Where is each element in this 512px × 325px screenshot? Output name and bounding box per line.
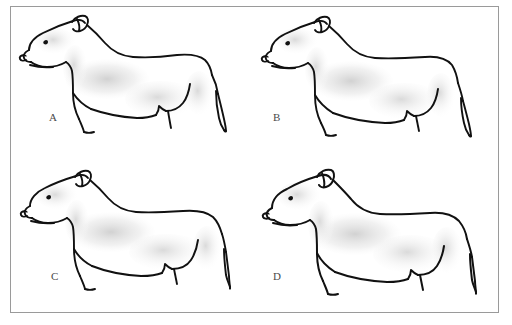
dog-drawing-a bbox=[11, 7, 255, 160]
dog-drawing-c bbox=[11, 160, 255, 313]
panel-c: C bbox=[11, 160, 255, 313]
panel-a: A bbox=[11, 7, 255, 160]
dog-drawing-b bbox=[255, 7, 499, 160]
panel-label-a: A bbox=[49, 111, 57, 123]
panel-label-c: C bbox=[51, 270, 59, 282]
panel-label-d: D bbox=[273, 270, 281, 282]
panel-b: B bbox=[255, 7, 499, 160]
panel-label-b: B bbox=[273, 111, 281, 123]
illustration-plate: A bbox=[10, 6, 499, 313]
dog-drawing-d bbox=[255, 160, 499, 313]
panel-d: D bbox=[255, 160, 499, 313]
